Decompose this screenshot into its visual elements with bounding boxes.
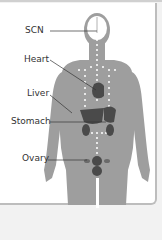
right-kidney-organ <box>106 124 114 136</box>
label-ovary: Ovary <box>22 153 49 163</box>
uterus-lower <box>92 166 102 176</box>
label-stomach: Stomach <box>11 116 51 126</box>
right-ovary-organ <box>104 159 110 163</box>
label-heart: Heart <box>24 54 49 64</box>
leg-gap <box>96 178 99 208</box>
left-ovary-organ <box>84 159 90 163</box>
uterus-organ <box>92 156 102 166</box>
heart-organ <box>92 82 104 98</box>
left-kidney-organ <box>82 124 90 136</box>
stomach-organ <box>104 106 116 122</box>
label-scn: SCN <box>25 25 44 35</box>
label-liver: Liver <box>27 88 49 98</box>
